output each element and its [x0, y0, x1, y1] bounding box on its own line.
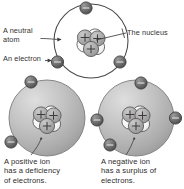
neutral-atom-diagram	[41, 2, 129, 78]
electron	[5, 136, 17, 148]
electron	[51, 56, 63, 68]
electron	[114, 56, 126, 68]
label-an-electron: An electron	[3, 55, 41, 64]
proton	[83, 41, 98, 56]
electron	[80, 2, 92, 14]
electron	[25, 76, 37, 88]
positive-ion-diagram	[5, 76, 85, 156]
leader-an-electron	[45, 58, 52, 62]
proton	[39, 118, 54, 133]
atom-diagram-figure: A neutral atom An electron The nucleus A…	[0, 0, 184, 189]
electron	[169, 112, 181, 124]
leader-neutral-atom	[41, 37, 62, 41]
label-the-nucleus: The nucleus	[127, 29, 168, 38]
nucleus-cluster	[77, 29, 105, 57]
label-neutral-atom: A neutral atom	[3, 27, 33, 44]
electron	[104, 139, 116, 151]
caption-negative-ion: A negative ion has a surplus of electron…	[101, 157, 156, 185]
electron	[91, 114, 103, 126]
electron	[135, 77, 147, 89]
negative-ion-diagram	[91, 77, 182, 156]
caption-positive-ion: A positive ion has a deficiency of elect…	[4, 157, 60, 185]
proton	[128, 118, 143, 133]
